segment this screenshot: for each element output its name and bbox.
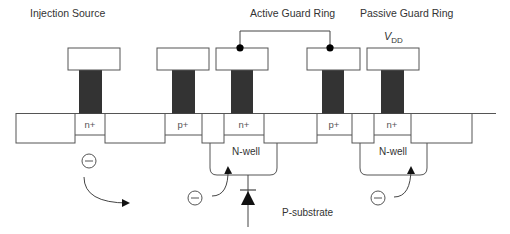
diffusion-label-passive-n: n+: [387, 119, 398, 130]
contact-passive-n: [367, 48, 419, 114]
sti-block: [352, 114, 374, 144]
sti-block: [411, 114, 472, 144]
electron-icon: [371, 191, 385, 205]
vdd-label: VDD: [384, 30, 403, 45]
contact-ring1: [157, 48, 209, 114]
contact-active-p: [307, 48, 360, 114]
contact-plug: [79, 70, 102, 114]
metal-cap: [216, 48, 268, 70]
metal-cap: [68, 48, 120, 70]
diffusion-label-ring1-p: p+: [178, 119, 189, 130]
sti-block: [264, 114, 317, 144]
contact-injector: [68, 48, 120, 114]
active-ring-wire: [240, 31, 330, 48]
wire-node-dot: [327, 45, 334, 52]
electron-path-arrow: [84, 177, 128, 203]
guard-ring-cross-section: Injection Source Active Guard Ring Passi…: [0, 0, 510, 234]
electron-icon: [188, 191, 202, 205]
metal-cap: [307, 48, 360, 70]
metal-cap: [367, 48, 419, 70]
sti-block: [105, 114, 165, 144]
diffusion-label-active-p: p+: [329, 119, 340, 130]
diffusion-label-active-n: n+: [239, 119, 250, 130]
electron-icon: [82, 154, 96, 168]
title-passive-guard-ring: Passive Guard Ring: [360, 7, 454, 19]
sti-block: [202, 114, 224, 144]
title-active-guard-ring: Active Guard Ring: [250, 7, 335, 19]
nwell-passive-label: N-well: [379, 146, 407, 157]
nwell-active-label: N-well: [232, 146, 260, 157]
substrate-label: P-substrate: [282, 207, 334, 218]
contact-plug: [172, 70, 195, 114]
diode-icon: [240, 175, 256, 227]
wire-node-dot: [237, 45, 244, 52]
contact-plug: [381, 70, 404, 114]
metal-cap: [157, 48, 209, 70]
contact-plug: [231, 70, 253, 114]
contact-active-n: [216, 48, 268, 114]
title-injection-source: Injection Source: [30, 7, 105, 19]
contact-plug: [322, 70, 344, 114]
diffusion-label-injector-n: n+: [85, 119, 96, 130]
sti-block: [16, 114, 75, 144]
